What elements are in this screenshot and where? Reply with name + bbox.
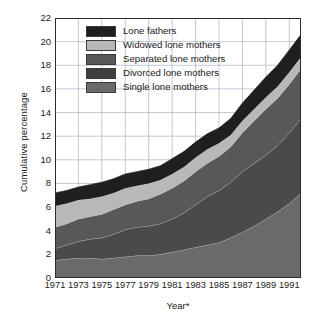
x-axis-label: Year* [55,300,301,311]
y-tick-label: 14 [22,108,51,118]
x-axis-tick-labels: 1971197319751977197919811983198519871989… [0,281,323,295]
legend-item: Widowed lone mothers [86,38,236,52]
legend-label: Widowed lone mothers [123,40,221,50]
legend-swatch [86,40,116,51]
legend-item: Lone fathers [86,24,236,38]
legend-swatch [86,54,116,65]
x-tick-label: 1991 [279,281,300,290]
y-tick-label: 8 [22,179,51,189]
x-tick-label: 1973 [68,281,89,290]
x-tick-label: 1981 [162,281,183,290]
x-tick-label: 1985 [209,281,230,290]
x-tick-label: 1975 [92,281,113,290]
legend-item: Single lone mothers [86,80,236,94]
legend-swatch [86,68,116,79]
y-axis-tick-labels: 0246810121416182022 [22,0,51,320]
y-tick-label: 18 [22,61,51,71]
x-tick-label: 1989 [256,281,277,290]
y-tick-label: 2 [22,250,51,260]
y-tick-label: 6 [22,202,51,212]
y-tick-label: 20 [22,37,51,47]
x-tick-label: 1979 [138,281,159,290]
x-tick-label: 1977 [115,281,136,290]
legend-label: Single lone mothers [123,82,208,92]
chart-legend: Lone fathersWidowed lone mothersSeparate… [86,24,236,94]
y-tick-label: 4 [22,226,51,236]
legend-swatch [86,26,116,37]
y-tick-label: 10 [22,155,51,165]
stacked-area-chart: Cumulative percentage 024681012141618202… [0,0,323,320]
y-tick-label: 22 [22,13,51,23]
legend-label: Separated lone mothers [123,54,225,64]
legend-item: Divorced lone mothers [86,66,236,80]
legend-label: Divorced lone mothers [123,68,219,78]
x-tick-label: 1983 [185,281,206,290]
x-tick-label: 1971 [45,281,66,290]
y-tick-label: 16 [22,84,51,94]
legend-item: Separated lone mothers [86,52,236,66]
legend-swatch [86,82,116,93]
x-tick-label: 1987 [232,281,253,290]
y-tick-label: 12 [22,131,51,141]
legend-label: Lone fathers [123,26,176,36]
